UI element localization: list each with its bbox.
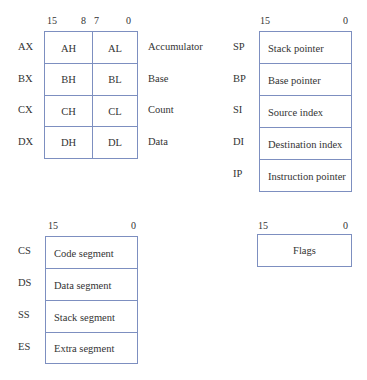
- bit-label-0: 0: [126, 15, 131, 26]
- register-description-dx: Data: [148, 136, 168, 147]
- register-row-cx: CH CL: [45, 95, 137, 127]
- register-name-sp: SP: [233, 41, 245, 52]
- bit-label-8: 8: [81, 15, 86, 26]
- bit-label-15: 15: [260, 15, 270, 26]
- register-row-es: Extra segment: [46, 332, 137, 364]
- register-cell-ip: Instruction pointer: [260, 171, 346, 182]
- register-description-ax: Accumulator: [148, 41, 203, 52]
- register-high-bh: BH: [61, 74, 76, 85]
- register-low-bl: BL: [108, 74, 121, 85]
- register-name-ip: IP: [233, 168, 242, 179]
- flags-label: Flags: [293, 245, 316, 256]
- register-high-ch: CH: [61, 106, 76, 117]
- register-name-cs: CS: [18, 245, 31, 256]
- bit-label-15: 15: [48, 220, 58, 231]
- register-row-ax: AH AL: [45, 32, 137, 64]
- register-name-cx: CX: [18, 104, 33, 115]
- bit-label-15: 15: [47, 15, 57, 26]
- register-low-cl: CL: [108, 106, 121, 117]
- register-cell-ds: Data segment: [46, 280, 111, 291]
- register-cell-di: Destination index: [260, 139, 342, 150]
- register-row-bp: Base pointer: [260, 63, 351, 96]
- bit-label-15: 15: [258, 220, 268, 231]
- register-name-bp: BP: [233, 73, 246, 84]
- register-cell-cs: Code segment: [46, 248, 114, 259]
- register-name-es: ES: [18, 341, 30, 352]
- register-name-ss: SS: [18, 309, 30, 320]
- register-row-ds: Data segment: [46, 268, 137, 301]
- register-cell-bp: Base pointer: [260, 75, 321, 86]
- segment-register-box: Code segment Data segment Stack segment …: [45, 236, 138, 364]
- register-row-bx: BH BL: [45, 63, 137, 95]
- row-divider: [44, 126, 138, 127]
- flags-register-box: Flags: [257, 234, 352, 267]
- register-name-si: SI: [233, 104, 242, 115]
- register-cell-sp: Stack pointer: [260, 43, 324, 54]
- bit-label-0: 0: [343, 220, 348, 231]
- register-cell-es: Extra segment: [46, 343, 114, 354]
- register-cell-ss: Stack segment: [46, 312, 115, 323]
- register-row-ss: Stack segment: [46, 300, 137, 333]
- register-row-dx: DH DL: [45, 126, 137, 158]
- register-row-di: Destination index: [260, 127, 351, 160]
- register-description-cx: Count: [148, 104, 174, 115]
- register-row-ip: Instruction pointer: [260, 159, 351, 192]
- register-high-ah: AH: [61, 43, 76, 54]
- register-high-dh: DH: [61, 137, 76, 148]
- register-cell-si: Source index: [260, 107, 323, 118]
- pointer-index-register-box: Stack pointer Base pointer Source index …: [259, 31, 352, 192]
- row-divider: [44, 95, 138, 96]
- register-row-sp: Stack pointer: [260, 32, 351, 64]
- register-name-bx: BX: [18, 73, 33, 84]
- bit-label-0: 0: [343, 15, 348, 26]
- register-name-di: DI: [233, 136, 244, 147]
- register-row-si: Source index: [260, 95, 351, 128]
- register-name-dx: DX: [18, 136, 33, 147]
- register-low-al: AL: [108, 43, 122, 54]
- register-name-ax: AX: [18, 41, 33, 52]
- bit-label-0: 0: [131, 220, 136, 231]
- register-name-ds: DS: [18, 277, 31, 288]
- register-description-bx: Base: [148, 73, 168, 84]
- bit-label-7: 7: [94, 15, 99, 26]
- register-row-cs: Code segment: [46, 237, 137, 269]
- register-low-dl: DL: [108, 137, 122, 148]
- row-divider: [44, 63, 138, 64]
